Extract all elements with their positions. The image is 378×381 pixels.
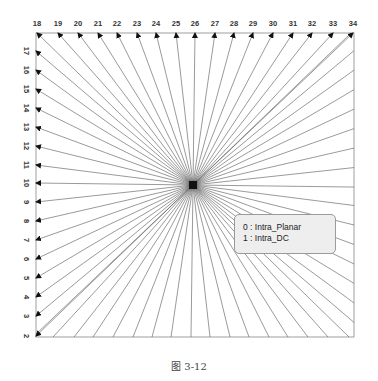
mode-ray-20	[78, 33, 193, 185]
mode-label-24: 24	[152, 19, 161, 28]
figure-caption: 图 3-12	[0, 358, 378, 373]
mode-ray-33	[193, 33, 333, 185]
mode-ray-2	[36, 185, 193, 336]
mode-label-2: 2	[22, 334, 31, 338]
legend-item-dc: 1 : Intra_DC	[243, 233, 335, 244]
mode-ray-34	[193, 33, 353, 185]
mode-label-6: 6	[22, 257, 31, 261]
mode-label-7: 7	[22, 238, 31, 242]
mode-label-17: 17	[22, 47, 31, 55]
opposite-ray-30	[113, 185, 193, 337]
opposite-ray-31	[93, 185, 193, 337]
mode-label-23: 23	[133, 19, 141, 28]
mode-ray-18	[37, 33, 193, 185]
mode-label-19: 19	[54, 19, 62, 28]
mode-ray-10	[36, 183, 193, 185]
mode-label-13: 13	[22, 123, 31, 131]
legend-item-planar: 0 : Intra_Planar	[243, 222, 335, 233]
mode-label-27: 27	[211, 19, 219, 28]
mode-label-34: 34	[349, 19, 358, 28]
mode-label-14: 14	[22, 104, 31, 113]
top-mode-labels: 1819202122232425262728293031323334	[33, 19, 358, 28]
left-mode-labels: 171615141312111098765432	[22, 47, 31, 338]
mode-label-26: 26	[191, 19, 199, 28]
mode-label-8: 8	[22, 219, 31, 223]
mode-ray-3	[36, 185, 193, 316]
opposite-ray-29	[133, 185, 193, 337]
mode-ray-31	[193, 33, 293, 185]
mode-label-12: 12	[22, 142, 31, 150]
mode-ray-8	[36, 185, 193, 221]
mode-label-9: 9	[22, 200, 31, 204]
mode-ray-27	[193, 33, 215, 185]
mode-ray-28	[193, 33, 234, 185]
mode-ray-26	[193, 33, 195, 185]
mode-label-28: 28	[230, 19, 238, 28]
mode-ray-17	[36, 51, 193, 185]
mode-label-33: 33	[329, 19, 337, 28]
mode-label-21: 21	[94, 19, 102, 28]
mode-label-5: 5	[22, 276, 31, 280]
mode-label-25: 25	[172, 19, 180, 28]
mode-label-30: 30	[269, 19, 277, 28]
intra-mode-diagram: 1819202122232425262728293031323334 17161…	[0, 0, 378, 381]
opposite-ray-26	[191, 185, 193, 337]
mode-label-4: 4	[22, 295, 31, 300]
mode-ray-22	[117, 33, 193, 185]
mode-ray-4	[36, 185, 193, 297]
mode-ray-12	[36, 146, 193, 185]
opposite-ray-27	[171, 185, 193, 337]
mode-ray-30	[193, 33, 273, 185]
mode-label-31: 31	[289, 19, 297, 28]
center-point	[189, 181, 197, 189]
opposite-ray-18	[193, 185, 349, 337]
mode-label-22: 22	[113, 19, 121, 28]
mode-label-20: 20	[74, 19, 82, 28]
opposite-ray-28	[152, 185, 193, 337]
mode-label-11: 11	[22, 161, 31, 169]
opposite-ray-3	[193, 51, 354, 185]
mode-ray-29	[193, 33, 253, 185]
mode-label-32: 32	[308, 19, 316, 28]
mode-ray-14	[36, 108, 193, 185]
opposite-ray-20	[193, 185, 308, 337]
opposite-ray-8	[193, 148, 354, 185]
mode-ray-6	[36, 185, 193, 259]
mode-label-15: 15	[22, 85, 31, 93]
legend-box: 0 : Intra_Planar 1 : Intra_DC	[234, 214, 336, 254]
opposite-ray-10	[193, 185, 354, 187]
mode-ray-19	[58, 33, 193, 185]
mode-label-16: 16	[22, 66, 31, 74]
opposite-ray-33	[53, 185, 193, 337]
opposite-ray-22	[193, 185, 269, 337]
opposite-ray-4	[193, 70, 354, 185]
mode-ray-15	[36, 89, 193, 185]
mode-ray-32	[193, 33, 312, 185]
opposite-ray-6	[193, 109, 354, 185]
opposite-ray-19	[193, 185, 328, 337]
mode-label-10: 10	[22, 179, 31, 187]
mode-ray-13	[36, 127, 193, 185]
mode-label-18: 18	[33, 19, 41, 28]
mode-label-29: 29	[249, 19, 257, 28]
opposite-ray-32	[74, 185, 193, 337]
mode-label-3: 3	[22, 314, 31, 318]
